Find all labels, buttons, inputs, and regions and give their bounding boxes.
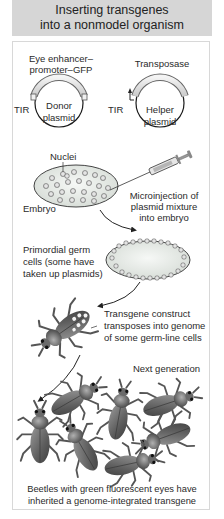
helper-plasmid-label-line1: Helper xyxy=(141,104,179,116)
microinjection-line2: plasmid mixture xyxy=(124,201,204,212)
tir-right-label: TIR xyxy=(108,104,123,115)
germ-cells-label: Primordial germ cells (some have taken u… xyxy=(23,244,103,280)
embryo xyxy=(34,162,118,207)
result-caption: Beetles with green fluorescent eyes have… xyxy=(14,483,210,507)
progeny-beetles xyxy=(17,363,207,490)
result-caption-line1: Beetles with green fluorescent eyes have xyxy=(14,483,210,495)
helper-plasmid-label: Helper plasmid xyxy=(141,104,179,128)
microinjection-label: Microinjection of plasmid mixture into e… xyxy=(124,190,204,223)
donor-gene-label-line1: Eye enhancer– xyxy=(26,53,96,64)
founder-beetle xyxy=(22,294,102,370)
donor-gene-label-line2: promoter–GFP xyxy=(26,64,96,75)
tir-right-marker xyxy=(82,94,87,100)
tir-left-marker xyxy=(31,94,36,100)
microinjection-line1: Microinjection of xyxy=(124,190,204,201)
transposition-line2: transposes into genome xyxy=(104,320,205,332)
arrow-germcells-to-beetle xyxy=(100,282,140,306)
germ-cells-line3: taken up plasmids) xyxy=(23,268,103,280)
donor-gene-label: Eye enhancer– promoter–GFP xyxy=(26,53,96,75)
donor-plasmid-label-line1: Donor xyxy=(40,100,78,112)
donor-plasmid-label: Donor plasmid xyxy=(40,100,78,124)
result-caption-line2: inherited a genome-integrated transgene xyxy=(14,495,210,507)
transposition-line1: Transgene construct xyxy=(104,308,205,320)
next-generation-label: Next generation xyxy=(120,363,200,374)
nuclei-label: Nuclei xyxy=(50,151,76,162)
tir-left-label: TIR xyxy=(14,104,29,115)
transposition-line3: of some germ-line cells xyxy=(104,332,205,344)
germ-cell-embryo xyxy=(106,239,190,281)
transposition-label: Transgene construct transposes into geno… xyxy=(104,308,205,344)
helper-plasmid-label-line2: plasmid xyxy=(141,116,179,128)
germ-cells-line1: Primordial germ xyxy=(23,244,103,256)
helper-gene-label: Transposase xyxy=(134,58,190,69)
germ-cells-line2: cells (some have xyxy=(23,256,103,268)
syringe-icon xyxy=(110,149,193,190)
donor-plasmid-label-line2: plasmid xyxy=(40,112,78,124)
embryo-label: Embryo xyxy=(23,203,56,214)
microinjection-line3: into embryo xyxy=(124,212,204,223)
